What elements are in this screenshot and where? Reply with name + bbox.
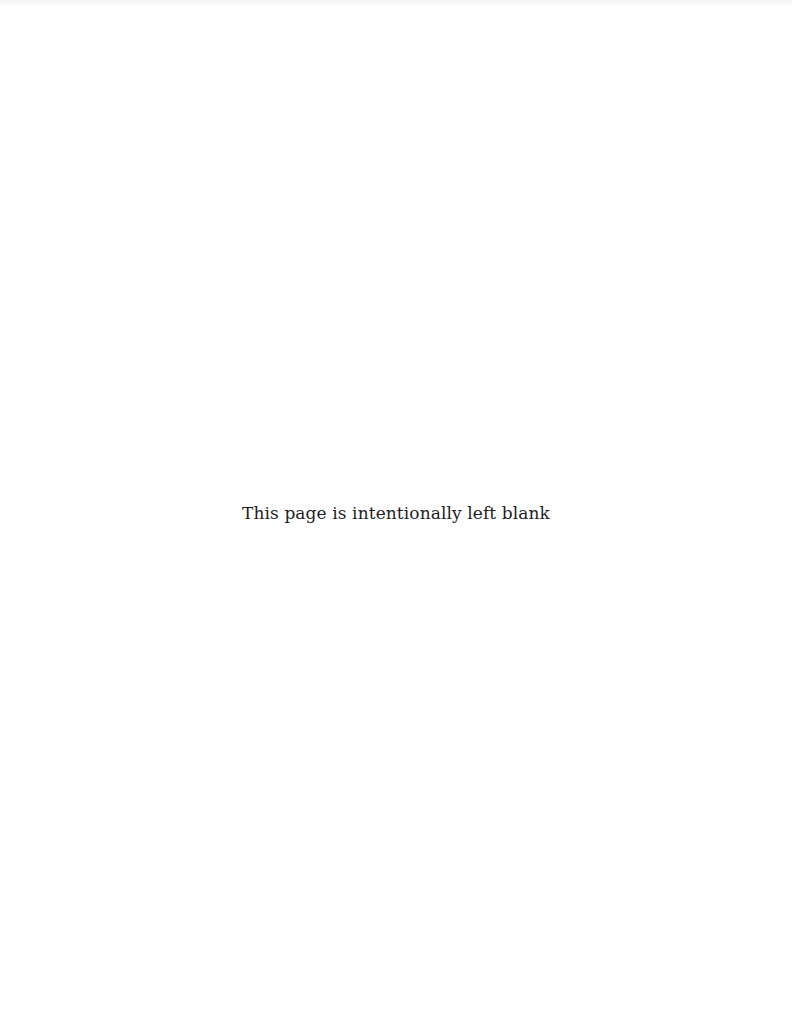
scan-top-edge xyxy=(0,0,792,6)
document-page: This page is intentionally left blank xyxy=(0,0,792,1017)
blank-page-notice: This page is intentionally left blank xyxy=(0,503,792,523)
